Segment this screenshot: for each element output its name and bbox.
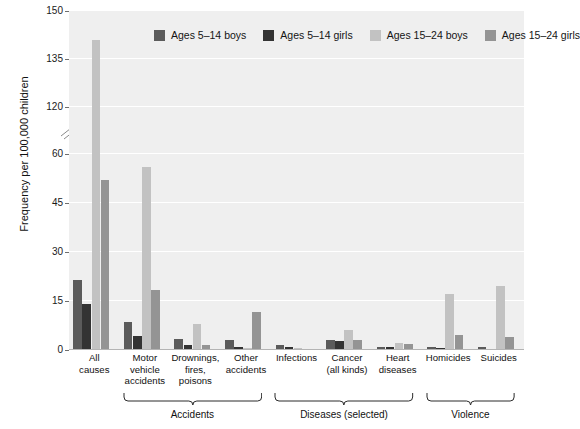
bar-group	[377, 11, 413, 350]
y-axis-tick-label: 15	[52, 296, 63, 306]
group-bracket-label: Accidents	[112, 409, 272, 420]
bar-group	[174, 11, 210, 350]
legend-label: Ages 5–14 girls	[280, 29, 352, 41]
bar-group	[124, 11, 160, 350]
bar[interactable]	[252, 312, 261, 350]
legend-swatch-icon	[154, 30, 165, 41]
legend-swatch-icon	[370, 30, 381, 41]
bar[interactable]	[142, 167, 151, 350]
y-axis-tick-label: 30	[52, 247, 63, 257]
bar[interactable]	[92, 40, 101, 350]
y-axis-tick-label: 45	[52, 198, 63, 208]
y-axis-tick-label: 120	[46, 102, 63, 112]
bar-group	[73, 11, 109, 350]
bar[interactable]	[82, 304, 91, 350]
legend-item-ages-15-24-girls[interactable]: Ages 15–24 girls	[485, 29, 580, 41]
bar[interactable]	[445, 294, 454, 350]
legend: Ages 5–14 boys Ages 5–14 girls Ages 15–2…	[154, 29, 580, 41]
legend-item-ages-5-14-girls[interactable]: Ages 5–14 girls	[263, 29, 352, 41]
y-axis-tick-label: 135	[46, 54, 63, 64]
bar-group	[478, 11, 514, 350]
x-axis-baseline	[69, 349, 524, 350]
legend-label: Ages 5–14 boys	[171, 29, 246, 41]
legend-swatch-icon	[485, 30, 496, 41]
bar[interactable]	[193, 324, 202, 350]
category-group-brackets: AccidentsDiseases (selected)Violence	[69, 392, 524, 429]
group-bracket	[426, 392, 515, 405]
bar-group	[225, 11, 261, 350]
group-bracket-label: Violence	[390, 409, 550, 420]
y-axis-tick-mark	[65, 350, 69, 351]
legend-item-ages-5-14-boys[interactable]: Ages 5–14 boys	[154, 29, 246, 41]
legend-label: Ages 15–24 boys	[387, 29, 468, 41]
legend-swatch-icon	[263, 30, 274, 41]
y-axis-title: Frequency per 100,000 children	[18, 24, 30, 284]
bar-group	[276, 11, 312, 350]
y-axis-tick-label: 150	[46, 6, 63, 16]
bar[interactable]	[101, 180, 110, 350]
bar[interactable]	[73, 280, 82, 350]
bar-group	[427, 11, 463, 350]
y-axis-tick-label: 60	[52, 149, 63, 159]
bar[interactable]	[124, 322, 133, 350]
legend-item-ages-15-24-boys[interactable]: Ages 15–24 boys	[370, 29, 468, 41]
bar[interactable]	[344, 330, 353, 350]
bar[interactable]	[455, 335, 464, 350]
legend-label: Ages 15–24 girls	[502, 29, 580, 41]
group-bracket	[274, 392, 414, 405]
bar-group	[326, 11, 362, 350]
bar[interactable]	[496, 286, 505, 350]
y-axis: Frequency per 100,000 children 015304560…	[0, 0, 69, 361]
bar[interactable]	[151, 290, 160, 350]
plot-area: Ages 5–14 boys Ages 5–14 girls Ages 15–2…	[69, 11, 524, 350]
group-bracket	[123, 392, 263, 405]
bar[interactable]	[133, 336, 142, 350]
x-axis-category-label: Suicides	[465, 352, 533, 364]
